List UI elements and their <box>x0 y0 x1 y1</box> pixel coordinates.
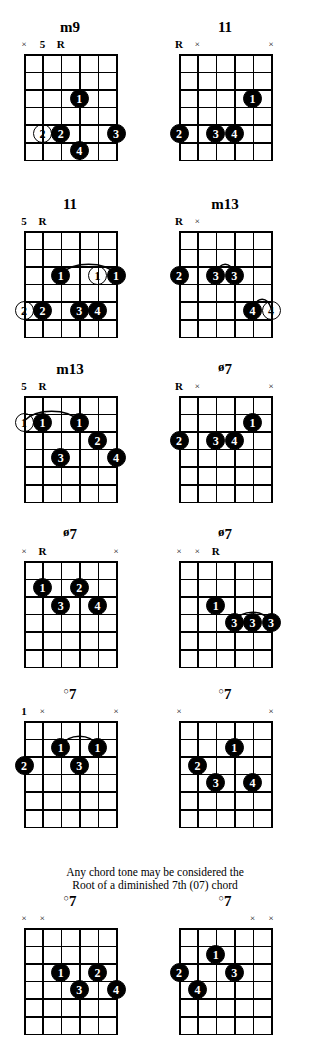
fret-line <box>179 721 273 723</box>
caption-line-1: Any chord tone may be considered the <box>0 866 310 879</box>
finger-dot: 4 <box>188 980 207 999</box>
chord-name-text: 7 <box>225 361 233 377</box>
muted-string-marker: × <box>113 545 118 557</box>
fret-line <box>179 827 273 829</box>
fret-line <box>179 998 273 1000</box>
chord-name-label: ○7 <box>169 686 281 704</box>
finger-dot-optional: 1 <box>88 266 107 285</box>
muted-string-marker: × <box>40 705 45 717</box>
finger-dot: 1 <box>206 596 225 615</box>
string-markers: 5R <box>24 380 116 393</box>
chord-name-label: ø7 <box>169 361 281 378</box>
fret-line <box>24 774 118 776</box>
fret-line <box>24 72 118 74</box>
fret-line <box>179 231 273 233</box>
fret-line <box>179 791 273 793</box>
chord-name-label: 11 <box>14 196 126 212</box>
fret-line <box>24 284 118 286</box>
fret-line <box>24 721 118 723</box>
fretboard-grid <box>179 54 271 160</box>
fret-line <box>24 449 118 451</box>
chord-diagram: ○7××1234 <box>0 893 155 1039</box>
fret-line <box>24 809 118 811</box>
fretboard-grid <box>179 231 271 337</box>
fret-line <box>24 107 118 109</box>
string-markers: 1×× <box>24 705 116 718</box>
caption-line-2: Root of a diminished 7th (07) chord <box>0 879 310 892</box>
fret-line <box>24 756 118 758</box>
root-string-marker: R <box>38 545 46 557</box>
chord-name-text: m9 <box>60 19 80 35</box>
muted-string-marker: × <box>113 705 118 717</box>
muted-string-marker: × <box>21 545 26 557</box>
finger-dot: 4 <box>88 596 107 615</box>
fretboard-grid <box>24 928 116 1034</box>
fret-line <box>179 124 273 126</box>
finger-dot: 1 <box>88 738 107 757</box>
chord-diagram: ø7××R1333 <box>155 526 310 672</box>
root-string-marker: R <box>38 215 46 227</box>
chord-name-label: m13 <box>169 196 281 212</box>
fret-line <box>179 319 273 321</box>
finger-dot: 3 <box>70 756 89 775</box>
fret-line <box>179 667 273 669</box>
muted-string-marker: × <box>268 705 273 717</box>
fret-line <box>24 1016 118 1018</box>
muted-string-marker: × <box>21 38 26 50</box>
fret-line <box>24 89 118 91</box>
string-markers: ×5R <box>24 38 116 51</box>
chord-diagram: m135R111234 <box>0 361 155 507</box>
fretboard-grid <box>24 561 116 667</box>
fret-line <box>179 946 273 948</box>
interval-string-marker: 5 <box>21 380 27 392</box>
finger-dot-optional: 4 <box>262 301 281 320</box>
finger-dot: 2 <box>170 431 189 450</box>
finger-dot: 3 <box>70 980 89 999</box>
half-diminished-icon: ø <box>63 524 70 540</box>
finger-dot: 2 <box>170 266 189 285</box>
finger-dot: 1 <box>243 89 262 108</box>
finger-dot: 2 <box>170 963 189 982</box>
root-string-marker: R <box>175 38 183 50</box>
chord-diagram: ○7××1234 <box>155 686 310 832</box>
fret-line <box>24 396 118 398</box>
fret-line <box>179 928 273 930</box>
root-string-marker: R <box>57 38 65 50</box>
fret-line <box>179 160 273 162</box>
muted-string-marker: × <box>195 545 200 557</box>
root-string-marker: R <box>175 215 183 227</box>
fret-line <box>24 337 118 339</box>
fret-line <box>179 107 273 109</box>
muted-string-marker: × <box>195 215 200 227</box>
interval-string-marker: 5 <box>40 38 46 50</box>
fret-line <box>24 667 118 669</box>
fret-line <box>24 561 118 563</box>
chord-diagram: ø7R××1234 <box>155 361 310 507</box>
finger-dot: 3 <box>51 596 70 615</box>
muted-string-marker: × <box>40 912 45 924</box>
finger-dot: 3 <box>107 124 126 143</box>
fret-line <box>24 998 118 1000</box>
fret-line <box>24 231 118 233</box>
fret-line <box>24 1034 118 1036</box>
fret-line <box>24 981 118 983</box>
fret-line <box>24 249 118 251</box>
chord-name-label: ○7 <box>169 893 281 911</box>
finger-dot: 1 <box>225 738 244 757</box>
chord-diagram: ○71××1123 <box>0 686 155 832</box>
fret-line <box>179 249 273 251</box>
finger-dot: 3 <box>70 301 89 320</box>
fret-line <box>179 596 273 598</box>
finger-dot-optional: 2 <box>33 124 52 143</box>
chord-name-text: 7 <box>224 893 232 909</box>
finger-dot: 2 <box>70 578 89 597</box>
fret-line <box>179 649 273 651</box>
root-string-marker: R <box>38 380 46 392</box>
fretboard-grid <box>24 54 116 160</box>
finger-dot: 1 <box>107 266 126 285</box>
fret-line <box>179 739 273 741</box>
chord-name-text: m13 <box>211 196 239 212</box>
finger-dot-optional: 2 <box>15 301 34 320</box>
muted-string-marker: × <box>268 380 273 392</box>
finger-dot: 2 <box>170 124 189 143</box>
